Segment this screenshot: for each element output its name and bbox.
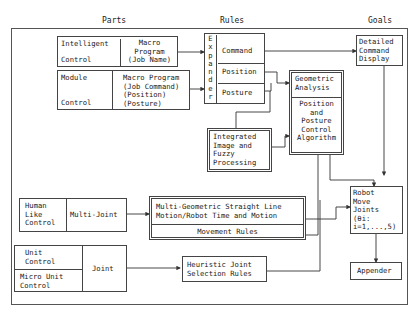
- unit-control-box: Unit Control Micro Unit Control Joint: [14, 245, 127, 292]
- rule-position: Position: [218, 64, 265, 84]
- heuristic-rules-box: Heuristic Joint Selection Rules: [182, 256, 267, 282]
- unit-control-label: Unit Control: [15, 246, 82, 270]
- rule-posture: Posture: [218, 84, 265, 104]
- rule-command: Command: [218, 34, 265, 64]
- movement-rules: Movement Rules: [152, 228, 303, 237]
- robot-move-joints-box: Robot Move Joints (θi: i=1,...,5): [350, 186, 403, 234]
- multi-joint-label: Multi-Joint: [66, 199, 127, 231]
- human-like-label: Human Like Control: [25, 202, 55, 228]
- integrated-processing-box: Integrated Image and Fuzzy Processing: [207, 128, 272, 172]
- detailed-command-display: Detailed Command Display: [359, 38, 394, 64]
- module-control-box: Module Control Macro Program (Job Comman…: [57, 70, 190, 110]
- heuristic-rules: Heuristic Joint Selection Rules: [187, 261, 252, 278]
- module-macro-program: Macro Program (Job Command) (Position) (…: [112, 71, 190, 109]
- geometric-analysis-box: Geometric Analysis Position and Posture …: [289, 70, 344, 155]
- detailed-command-display-box: Detailed Command Display: [356, 35, 403, 66]
- human-like-control-box: Human Like Control Multi-Joint: [19, 198, 127, 232]
- integrated-processing: Integrated Image and Fuzzy Processing: [213, 133, 256, 167]
- joint-label: Joint: [82, 246, 127, 291]
- module-label-bottom: Control: [61, 99, 91, 108]
- robot-move-joints: Robot Move Joints (θi: i=1,...,5): [353, 189, 396, 232]
- intelligent-control-box: Intelligent Control Macro Program (Job N…: [57, 36, 178, 67]
- multi-geometric-motion: Multi-Geometric Straight Line Motion/Rob…: [152, 199, 303, 225]
- geometric-analysis: Geometric Analysis: [292, 73, 341, 98]
- intelligent-macro-program: Macro Program (Job Name): [120, 39, 178, 66]
- expander-label: E x p a n d e r: [205, 35, 217, 104]
- micro-unit-control-label: Micro Unit Control: [15, 270, 63, 290]
- expander-box: E x p a n d e r Command Position Posture: [204, 33, 265, 104]
- module-label-top: Module: [61, 74, 87, 83]
- multi-geometric-box: Multi-Geometric Straight Line Motion/Rob…: [149, 196, 306, 240]
- position-posture-algorithm: Position and Posture Control Algorithm: [292, 100, 341, 143]
- intelligent-label-top: Intelligent: [61, 40, 109, 49]
- appender-box: Appender: [350, 262, 402, 280]
- intelligent-label-bottom: Control: [61, 56, 91, 65]
- appender: Appender: [357, 267, 392, 276]
